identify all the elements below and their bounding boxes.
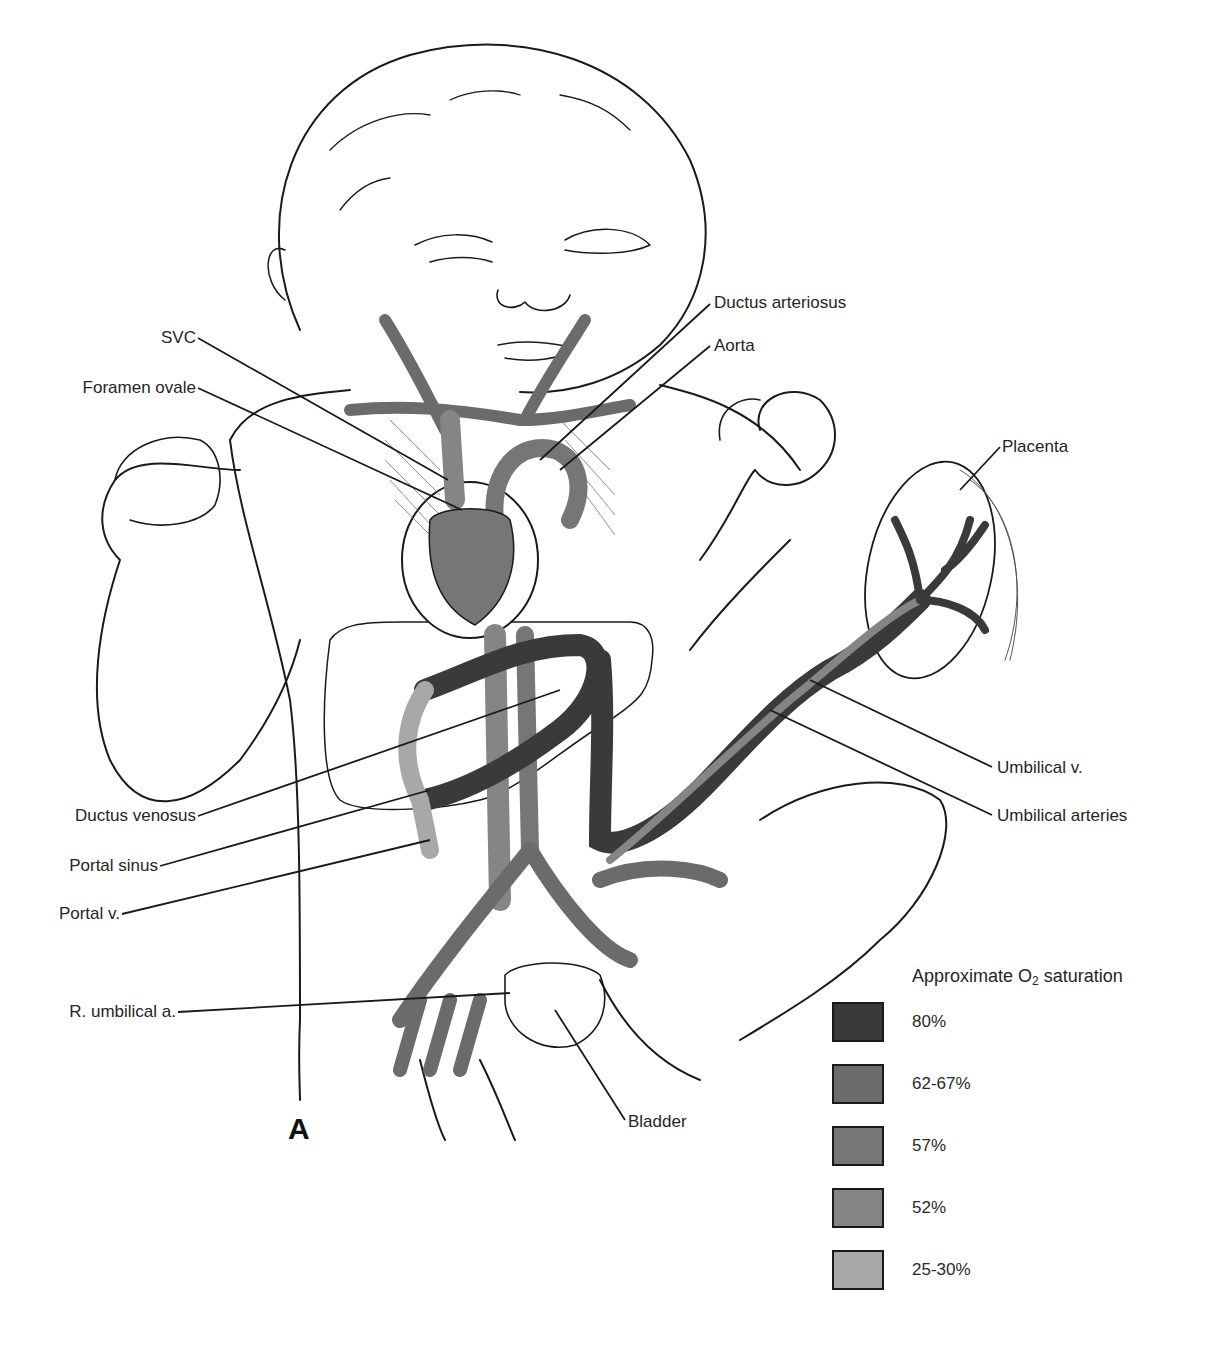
subclavian-vessel <box>350 405 630 420</box>
legend-swatch <box>832 1188 884 1228</box>
legend-label: 57% <box>912 1136 946 1156</box>
leader-r-umbilical-a <box>178 993 510 1012</box>
label-bladder: Bladder <box>628 1112 687 1132</box>
legend-swatch <box>832 1250 884 1290</box>
legend-swatch <box>832 1126 884 1166</box>
bladder-outline <box>505 963 605 1047</box>
label-svc: SVC <box>130 328 196 348</box>
leader-umbilical-arteries <box>770 710 992 815</box>
leader-ductus-arteriosus <box>540 304 710 460</box>
label-aorta: Aorta <box>714 336 755 356</box>
label-foramen-ovale: Foramen ovale <box>20 378 196 398</box>
legend-label: 25-30% <box>912 1260 971 1280</box>
legend-item-25-30: 25-30% <box>832 1250 1132 1296</box>
label-portal-v: Portal v. <box>20 904 120 924</box>
label-ductus-arteriosus: Ductus arteriosus <box>714 293 846 313</box>
infant-arm-left <box>97 463 300 801</box>
label-ductus-venosus: Ductus venosus <box>20 806 196 826</box>
infant-fist-right <box>719 399 760 440</box>
portal-vein-vessel <box>407 690 430 850</box>
iliac-vessels <box>400 1000 480 1070</box>
legend-item-80: 80% <box>832 1002 1132 1048</box>
infant-head-outline <box>279 45 706 393</box>
legend-item-62-67: 62-67% <box>832 1064 1132 1110</box>
infant-torso-outline <box>230 385 800 1100</box>
label-placenta: Placenta <box>1002 437 1068 457</box>
label-r-umbilical-a: R. umbilical a. <box>20 1002 176 1022</box>
legend-title: Approximate O2 saturation <box>912 966 1123 988</box>
leader-portal-sinus <box>160 790 430 866</box>
placenta-shading <box>960 470 1018 660</box>
legend-item-57: 57% <box>832 1126 1132 1172</box>
legend-label: 52% <box>912 1198 946 1218</box>
infant-hair <box>330 91 630 210</box>
svc-vessel <box>450 420 455 500</box>
legend-swatch <box>832 1002 884 1042</box>
ductus-venosus-vessel <box>425 645 597 800</box>
leader-umbilical-v <box>810 680 992 767</box>
infant-fist-left <box>115 437 220 525</box>
legend-item-52: 52% <box>832 1188 1132 1234</box>
label-portal-sinus: Portal sinus <box>20 856 158 876</box>
infant-nose <box>497 290 570 310</box>
infant-eye-left <box>415 235 492 262</box>
legend-label: 80% <box>912 1012 946 1032</box>
carotid-vessel <box>525 320 585 420</box>
label-umbilical-arteries: Umbilical arteries <box>997 806 1127 826</box>
legend-label: 62-67% <box>912 1074 971 1094</box>
panel-letter: A <box>288 1112 310 1146</box>
leader-portal-v <box>122 840 430 914</box>
legend-swatch <box>832 1064 884 1104</box>
infant-arm-right <box>690 392 835 650</box>
label-umbilical-v: Umbilical v. <box>997 758 1083 778</box>
infant-eye-right <box>565 229 650 253</box>
leader-bladder <box>555 1010 625 1120</box>
